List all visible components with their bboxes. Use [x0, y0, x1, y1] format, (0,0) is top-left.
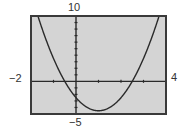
calculator-graph-screen — [0, 0, 180, 132]
graph-screen-background — [31, 16, 166, 114]
